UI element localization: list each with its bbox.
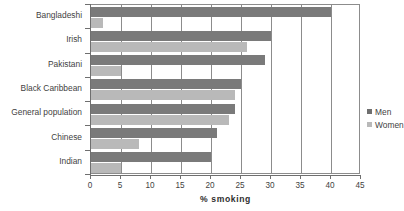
x-axis-tick [210,175,211,179]
x-axis-tick [240,175,241,179]
bar-group [91,151,359,175]
bar-women [91,18,103,28]
y-axis-tick [85,4,90,5]
legend-label: Men [375,107,391,117]
x-axis-tick-label: 0 [78,181,102,190]
bar-group [91,29,359,53]
x-axis-tick-label: 15 [168,181,192,190]
x-axis-tick [360,175,361,179]
x-axis-tick [330,175,331,179]
x-axis-tick [300,175,301,179]
category-label: Indian [0,157,82,166]
bar-men [91,152,211,162]
category-label: Black Caribbean [0,84,82,93]
y-axis-tick [85,53,90,54]
x-axis-tick-label: 10 [138,181,162,190]
y-axis-tick [85,101,90,102]
bar-women [91,115,229,125]
bar-women [91,163,121,173]
x-axis-tick-label: 35 [288,181,312,190]
bar-men [91,104,235,114]
legend-label: Women [375,120,404,130]
x-axis-tick-label: 45 [348,181,372,190]
x-axis-line [90,175,361,176]
y-axis-tick [85,125,90,126]
x-axis-tick-label: 25 [228,181,252,190]
bar-women [91,139,139,149]
plot-area: MenWomen [90,4,360,174]
legend-item: Women [367,118,404,131]
bar-men [91,31,271,41]
x-axis-tick [120,175,121,179]
category-axis-labels: BangladeshiIrishPakistaniBlack Caribbean… [0,4,86,174]
x-axis-title: % smoking [90,194,361,204]
bar-men [91,7,331,17]
legend-swatch-men [367,109,372,114]
x-axis-tick [270,175,271,179]
bar-men [91,79,241,89]
legend-item: Men [367,105,404,118]
x-axis-tick-label: 40 [318,181,342,190]
x-axis-tick [90,175,91,179]
bar-group [91,5,359,29]
category-label: Irish [0,35,82,44]
legend: MenWomen [367,105,404,131]
bar-group [91,78,359,102]
x-axis-tick [150,175,151,179]
x-axis-tick [180,175,181,179]
bar-men [91,128,217,138]
category-label: General population [0,108,82,117]
bar-women [91,42,247,52]
bar-women [91,66,121,76]
legend-swatch-women [367,122,372,127]
bar-men [91,55,265,65]
category-label: Chinese [0,133,82,142]
bar-rows [91,5,359,173]
x-axis-tick-label: 5 [108,181,132,190]
y-axis-line [90,4,91,175]
bar-group [91,126,359,150]
category-label: Bangladeshi [0,11,82,20]
bar-women [91,90,235,100]
category-label: Pakistani [0,60,82,69]
y-axis-tick [85,28,90,29]
x-axis-tick-label: 20 [198,181,222,190]
x-axis-tick-label: 30 [258,181,282,190]
bar-group [91,102,359,126]
y-axis-tick [85,77,90,78]
bar-group [91,54,359,78]
y-axis-tick [85,150,90,151]
